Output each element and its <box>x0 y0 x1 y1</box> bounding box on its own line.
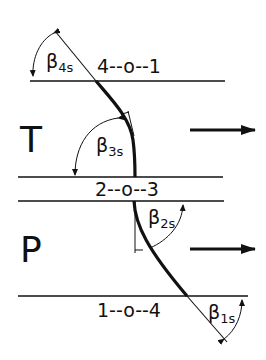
blade-t-profile <box>96 81 135 177</box>
angle-label-beta2s: β2s <box>148 206 175 231</box>
station-label-top: 4--o--1 <box>97 55 161 77</box>
station-label-bottom: 1--o--4 <box>97 299 161 321</box>
angle-label-beta1s: β1s <box>208 301 235 326</box>
angle-label-beta4s: β4s <box>46 50 73 75</box>
station-label-middle: 2--o--3 <box>95 178 159 200</box>
row-label-t: T <box>19 119 43 160</box>
angle-label-beta3s: β3s <box>96 134 123 159</box>
row-label-p: P <box>20 229 42 270</box>
blade-diagram: T P 4--o--1 2--o--3 1--o--4 β4s β3s β2s … <box>0 0 266 360</box>
